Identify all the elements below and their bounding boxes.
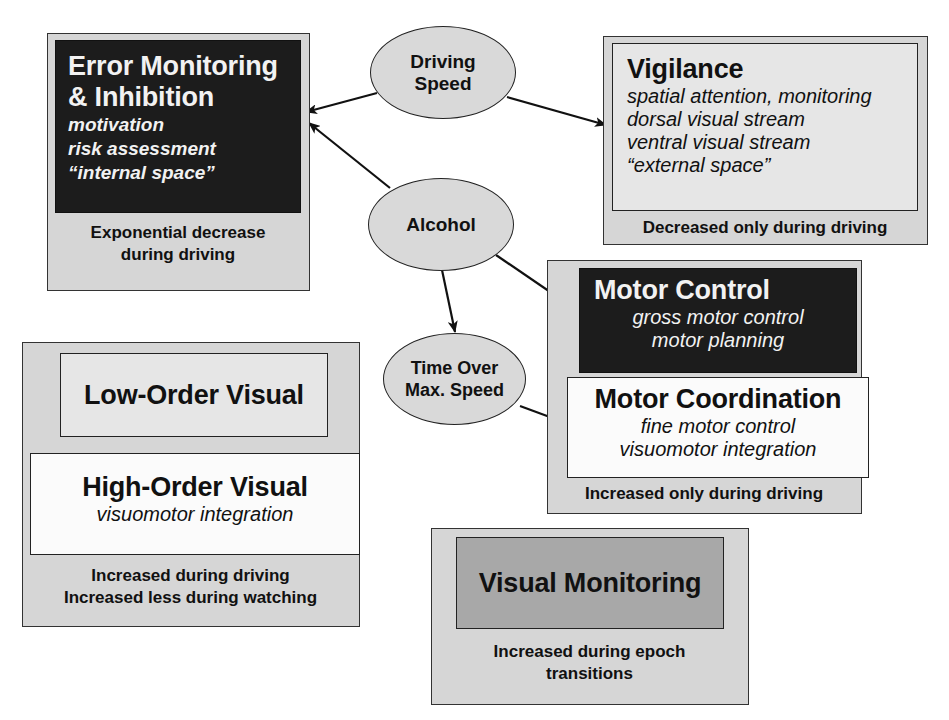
motor-control-box: Motor Control gross motor control motor … (579, 268, 857, 373)
visual-monitoring-caption-line2: transitions (432, 663, 747, 685)
alcohol-node: Alcohol (368, 178, 514, 271)
time-over-line1: Time Over (405, 357, 504, 379)
arrow-alcohol-to-error (309, 123, 390, 188)
error-monitoring-title-line2: & Inhibition (68, 82, 288, 113)
motor-coord-item-visuomotor: visuomotor integration (576, 438, 860, 461)
vigilance-item-dorsal: dorsal visual stream (627, 108, 903, 131)
driving-speed-node: Driving Speed (370, 26, 516, 119)
motor-control-item-gross: gross motor control (590, 306, 846, 329)
high-order-item-visuomotor: visuomotor integration (39, 503, 351, 526)
error-monitoring-caption: Exponential decrease during driving (48, 222, 308, 266)
visual-caption: Increased during driving Increased less … (23, 565, 358, 609)
time-over-line2: Max. Speed (405, 379, 504, 401)
visual-caption-line2: Increased less during watching (23, 587, 358, 609)
visual-monitoring-caption: Increased during epoch transitions (432, 641, 747, 685)
error-monitoring-panel: Error Monitoring & Inhibition motivation… (47, 33, 310, 291)
visual-monitoring-panel: Visual Monitoring Increased during epoch… (431, 528, 749, 705)
vigilance-item-ventral: ventral visual stream (627, 131, 903, 154)
visual-monitoring-box: Visual Monitoring (456, 537, 724, 629)
vigilance-panel: Vigilance spatial attention, monitoring … (603, 36, 928, 245)
error-item-internal-space: “internal space” (68, 161, 288, 185)
high-order-visual-title: High-Order Visual (39, 472, 351, 503)
vigilance-title: Vigilance (627, 54, 903, 85)
vigilance-item-spatial: spatial attention, monitoring (627, 85, 903, 108)
motor-control-item-planning: motor planning (590, 329, 846, 352)
driving-speed-line1: Driving (410, 51, 475, 73)
low-order-visual-box: Low-Order Visual (60, 353, 328, 437)
time-over-max-speed-node: Time Over Max. Speed (383, 333, 526, 425)
motor-control-title: Motor Control (590, 275, 846, 306)
motor-coordination-box: Motor Coordination fine motor control vi… (567, 377, 869, 478)
arrow-speed-to-vigilance (507, 97, 606, 125)
high-order-visual-box: High-Order Visual visuomotor integration (30, 453, 360, 555)
alcohol-label: Alcohol (406, 214, 476, 236)
error-monitoring-title-line1: Error Monitoring (68, 51, 288, 82)
error-caption-line2: during driving (48, 244, 308, 266)
error-caption-line1: Exponential decrease (48, 222, 308, 244)
motor-panel: Motor Control gross motor control motor … (547, 260, 862, 514)
error-item-risk: risk assessment (68, 137, 288, 161)
visual-monitoring-caption-line1: Increased during epoch (432, 641, 747, 663)
visual-caption-line1: Increased during driving (23, 565, 358, 587)
visual-panel: Low-Order Visual High-Order Visual visuo… (22, 342, 360, 627)
vigilance-caption: Decreased only during driving (604, 217, 926, 239)
motor-coordination-title: Motor Coordination (576, 384, 860, 415)
error-monitoring-box: Error Monitoring & Inhibition motivation… (55, 40, 301, 213)
error-item-motivation: motivation (68, 113, 288, 137)
arrow-alcohol-to-time (442, 270, 455, 332)
arrow-speed-to-error (306, 93, 377, 112)
low-order-visual-title: Low-Order Visual (84, 380, 304, 411)
motor-coord-item-fine: fine motor control (576, 415, 860, 438)
vigilance-box: Vigilance spatial attention, monitoring … (612, 43, 918, 211)
driving-speed-line2: Speed (410, 73, 475, 95)
vigilance-item-external: “external space” (627, 154, 903, 177)
visual-monitoring-title: Visual Monitoring (479, 568, 702, 599)
motor-caption: Increased only during driving (548, 483, 860, 505)
